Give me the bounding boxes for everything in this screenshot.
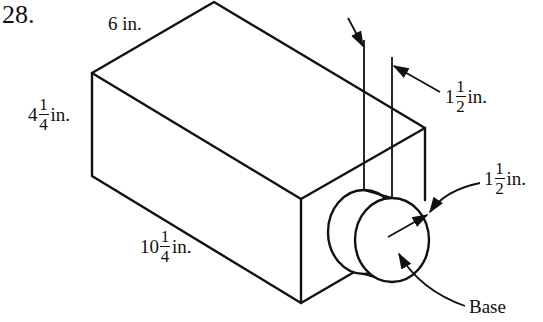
height-fraction: 1 4: [39, 96, 49, 133]
height-label: 4 1 4 in.: [28, 96, 70, 133]
cylinder-radius-unit: in.: [507, 169, 527, 188]
cylinder-length-unit: in.: [468, 87, 488, 106]
cylinder-radius-whole: 1: [484, 169, 494, 188]
length-unit: in.: [172, 237, 192, 256]
length-label: 10 1 4 in.: [140, 228, 192, 265]
cylinder-length-denominator: 2: [456, 98, 465, 115]
height-numerator: 1: [39, 96, 48, 113]
cylinder-radius-label: 1 1 2 in.: [484, 160, 526, 197]
length-whole: 10: [140, 237, 159, 256]
length-denominator: 4: [161, 248, 170, 265]
length-fraction: 1 4: [160, 228, 170, 265]
dim-arrow-left: [348, 18, 363, 46]
height-unit: in.: [51, 105, 71, 124]
cylinder-front-circle: [355, 198, 429, 282]
cylinder-radius-numerator: 1: [495, 160, 504, 177]
dim-arrow-right: [394, 66, 440, 92]
problem-number: 28.: [2, 2, 35, 28]
height-whole: 4: [28, 105, 38, 124]
cylinder-length-whole: 1: [445, 87, 455, 106]
cylinder-radius-fraction: 1 2: [495, 160, 505, 197]
cylinder-length-numerator: 1: [456, 78, 465, 95]
box-top-face: [92, 2, 425, 199]
length-numerator: 1: [161, 228, 170, 245]
cylinder-length-label: 1 1 2 in.: [445, 78, 487, 115]
diagram-canvas: 28. 6 in. 4 1 4 in. 10 1 4 in. 1 1 2 in.…: [0, 0, 543, 322]
cylinder-radius-denominator: 2: [495, 180, 504, 197]
box-front-face: [92, 73, 301, 303]
base-label: Base: [469, 297, 506, 316]
radius-leader: [430, 183, 480, 212]
box-with-cylinder-drawing: [0, 0, 543, 322]
width-label: 6 in.: [108, 14, 142, 33]
height-denominator: 4: [39, 116, 48, 133]
cylinder-length-fraction: 1 2: [456, 78, 466, 115]
